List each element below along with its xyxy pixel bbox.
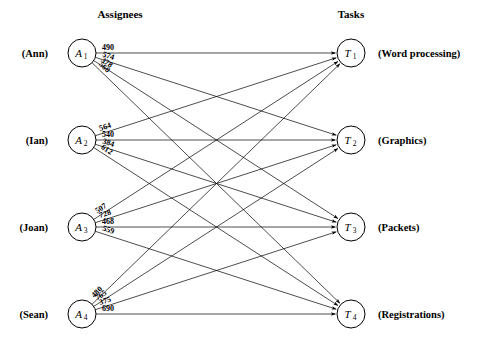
node-label-a3: A [74,221,82,233]
edges-layer [92,53,340,314]
node-label-a2: A [74,134,82,146]
node-subscript-t3: 3 [353,226,357,235]
assignee-name-a4: (Sean) [19,309,48,321]
node-subscript-t1: 1 [353,52,357,61]
node-subscript-a1: 1 [84,52,88,61]
column-header-tasks: Tasks [338,8,365,20]
edge-a4-t3 [95,232,336,310]
edge-a3-t1 [94,61,338,219]
edge-a3-t4 [95,231,336,309]
node-label-t2: T [344,134,351,146]
node-t2[interactable] [337,126,365,154]
edge-weight-a4-t4: 690 [102,304,114,313]
node-label-a1: A [74,47,82,59]
column-header-assignees: Assignees [97,8,143,20]
node-subscript-t4: 4 [353,313,357,322]
node-label-t1: T [344,47,351,59]
node-subscript-a3: 3 [84,226,88,235]
node-a4[interactable] [68,300,96,328]
node-subscript-t2: 2 [353,139,357,148]
node-label-t4: T [344,308,351,320]
assignee-name-a3: (Joan) [19,222,48,234]
node-label-t3: T [344,221,351,233]
assignee-name-a1: (Ann) [22,48,49,60]
node-a2[interactable] [68,126,96,154]
node-subscript-a2: 2 [84,139,88,148]
edge-a4-t2 [94,148,338,306]
bipartite-assignment-diagram: Assignees Tasks 490574378560564540384612… [0,0,486,350]
graph-canvas: Assignees Tasks 490574378560564540384612… [0,0,486,350]
edge-weights-layer: 4905743785605645403846125077284685594807… [89,43,115,313]
node-a1[interactable] [68,39,96,67]
node-t3[interactable] [337,213,365,241]
node-t1[interactable] [337,39,365,67]
task-name-t3: (Packets) [378,222,420,234]
node-label-a4: A [74,308,82,320]
edge-a2-t3 [95,144,336,222]
node-t4[interactable] [337,300,365,328]
edge-a4-t1 [92,64,340,304]
edge-a2-t4 [94,148,338,306]
assignee-name-a2: (Ian) [26,135,49,147]
edge-a2-t1 [95,58,336,136]
task-name-t1: (Word processing) [378,48,461,60]
node-a3[interactable] [68,213,96,241]
node-subscript-a4: 4 [84,313,88,322]
edge-a1-t3 [94,61,338,219]
edge-a1-t2 [95,57,336,135]
task-name-t4: (Registrations) [378,309,445,321]
task-name-t2: (Graphics) [378,135,427,147]
